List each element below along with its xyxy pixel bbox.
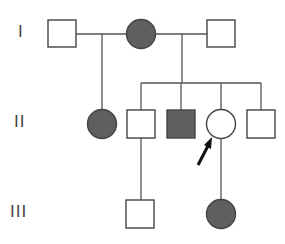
individual-II-1-female-affected — [88, 110, 117, 139]
individual-II-3-male-affected — [167, 110, 195, 138]
individual-I-3-male — [207, 20, 235, 47]
individual-III-1-male — [126, 200, 154, 228]
individual-I-2-female-affected — [127, 20, 156, 49]
proband-arrow-icon — [198, 137, 212, 165]
pedigree-diagram: I II III — [0, 0, 285, 244]
pedigree-svg — [0, 0, 285, 244]
individual-II-2-male — [127, 110, 155, 138]
individual-I-1-male — [48, 20, 76, 47]
individual-II-4-female-proband — [207, 110, 236, 139]
individual-II-5-male — [247, 110, 275, 138]
individual-III-2-female-affected — [207, 200, 236, 229]
